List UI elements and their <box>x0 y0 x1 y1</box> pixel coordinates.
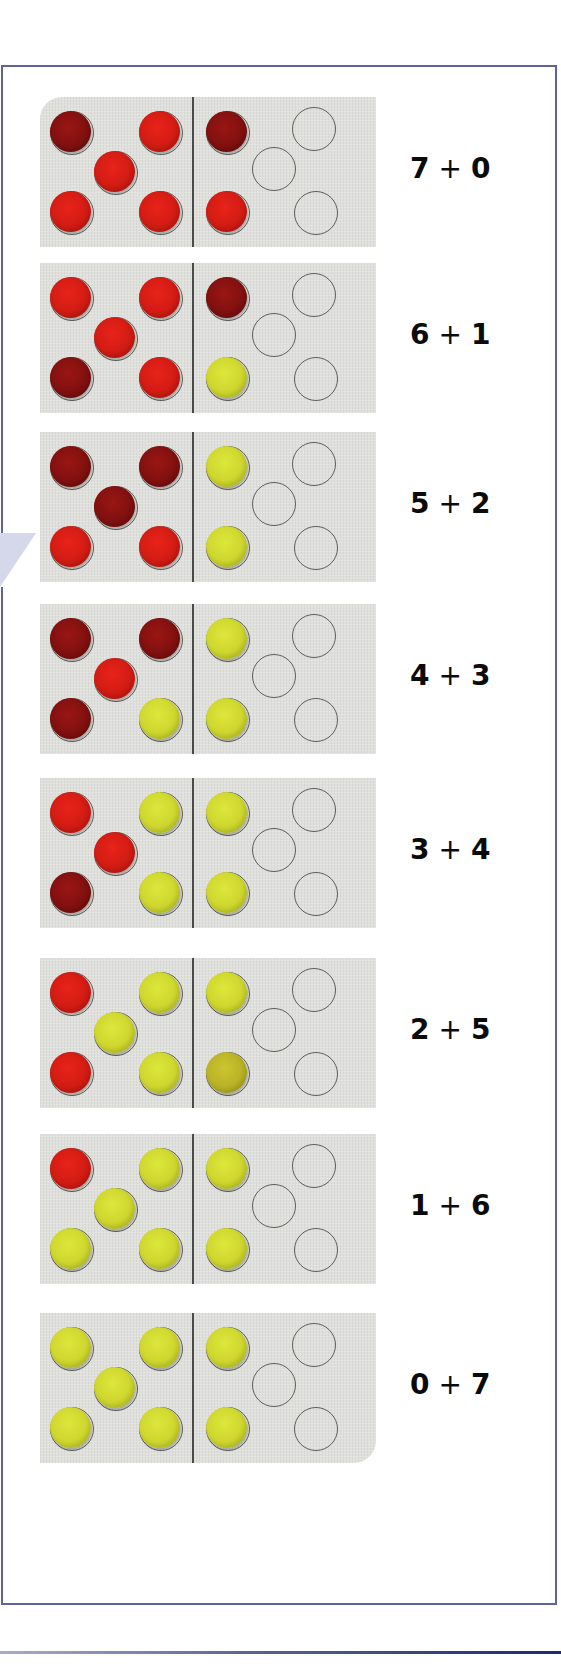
right-slot <box>294 1052 338 1096</box>
red-counter-icon <box>139 446 180 487</box>
right-slot <box>252 1363 296 1407</box>
red-counter-icon <box>94 317 135 358</box>
left-slot <box>139 191 183 235</box>
right-slot <box>206 111 250 155</box>
plus-sign: + <box>438 659 462 692</box>
addend-b: 3 <box>471 659 491 692</box>
right-slot <box>206 446 250 490</box>
yellow-counter-icon <box>139 1228 180 1269</box>
right-slot <box>294 872 338 916</box>
addend-b: 1 <box>471 318 491 351</box>
right-slot <box>206 1148 250 1192</box>
yellow-counter-icon <box>94 1012 135 1053</box>
decomposition-row: 2+5 <box>40 958 560 1108</box>
right-slot <box>206 526 250 570</box>
yellow-counter-icon <box>206 1228 247 1269</box>
right-slot <box>294 526 338 570</box>
red-counter-icon <box>50 526 91 567</box>
yellow-counter-icon <box>206 698 247 739</box>
red-counter-icon <box>139 618 180 659</box>
plus-sign: + <box>438 1013 462 1046</box>
card-divider <box>192 432 194 582</box>
addend-a: 2 <box>410 1013 430 1046</box>
plus-sign: + <box>438 487 462 520</box>
addend-b: 0 <box>471 152 491 185</box>
right-slot <box>292 442 336 486</box>
right-slot <box>206 277 250 321</box>
right-slot <box>206 191 250 235</box>
left-slot <box>50 1052 94 1096</box>
left-slot <box>50 526 94 570</box>
yellow-counter-icon <box>94 1188 135 1229</box>
sum-expression: 4+3 <box>410 659 491 692</box>
yellow-counter-icon <box>206 618 247 659</box>
left-slot <box>139 618 183 662</box>
right-slot <box>252 482 296 526</box>
red-counter-icon <box>50 698 91 739</box>
plus-sign: + <box>438 833 462 866</box>
left-slot <box>50 698 94 742</box>
addend-b: 4 <box>471 833 491 866</box>
yellow-counter-icon <box>206 446 247 487</box>
left-slot <box>139 1407 183 1451</box>
left-slot <box>139 872 183 916</box>
left-slot <box>139 792 183 836</box>
yellow-counter-icon <box>206 1407 247 1448</box>
right-slot <box>292 788 336 832</box>
right-slot <box>252 828 296 872</box>
right-slot <box>294 357 338 401</box>
red-counter-icon <box>139 191 180 232</box>
left-slot <box>50 1228 94 1272</box>
right-slot <box>206 357 250 401</box>
addend-a: 1 <box>410 1189 430 1222</box>
right-slot <box>206 1327 250 1371</box>
plus-sign: + <box>438 318 462 351</box>
decomposition-row: 5+2 <box>40 432 560 582</box>
red-counter-icon <box>94 486 135 527</box>
left-slot <box>139 698 183 742</box>
decomposition-row: 0+7 <box>40 1313 560 1463</box>
left-slot <box>94 151 138 195</box>
red-counter-icon <box>139 111 180 152</box>
decomposition-row: 6+1 <box>40 263 560 413</box>
right-slot <box>206 792 250 836</box>
yellow-counter-icon <box>206 357 247 398</box>
left-slot <box>50 1327 94 1371</box>
addend-b: 6 <box>471 1189 491 1222</box>
left-slot <box>94 486 138 530</box>
yellow-counter-icon <box>139 698 180 739</box>
right-slot <box>294 1228 338 1272</box>
left-slot <box>94 1012 138 1056</box>
yellow-counter-icon <box>50 1228 91 1269</box>
left-slot <box>139 1228 183 1272</box>
yellow-counter-icon <box>206 872 247 913</box>
right-slot <box>206 1228 250 1272</box>
card-divider <box>192 604 194 754</box>
card-divider <box>192 778 194 928</box>
yellow-counter-icon <box>139 1327 180 1368</box>
card-divider <box>192 97 194 247</box>
addend-b: 2 <box>471 487 491 520</box>
left-slot <box>50 357 94 401</box>
addend-a: 3 <box>410 833 430 866</box>
left-slot <box>139 357 183 401</box>
red-counter-icon <box>206 111 247 152</box>
right-slot <box>294 191 338 235</box>
sum-expression: 0+7 <box>410 1368 491 1401</box>
right-slot <box>206 618 250 662</box>
ten-frame-card <box>40 432 376 582</box>
left-slot <box>94 317 138 361</box>
red-counter-icon <box>50 357 91 398</box>
yellow-counter-icon <box>139 1052 180 1093</box>
plus-sign: + <box>438 1189 462 1222</box>
right-slot <box>292 1323 336 1367</box>
right-slot <box>292 273 336 317</box>
right-slot <box>206 698 250 742</box>
right-slot <box>206 1407 250 1451</box>
yellow-counter-icon <box>206 1327 247 1368</box>
addend-a: 4 <box>410 659 430 692</box>
left-slot <box>139 1148 183 1192</box>
right-slot <box>252 313 296 357</box>
left-slot <box>139 1052 183 1096</box>
yellow-counter-icon <box>139 1407 180 1448</box>
